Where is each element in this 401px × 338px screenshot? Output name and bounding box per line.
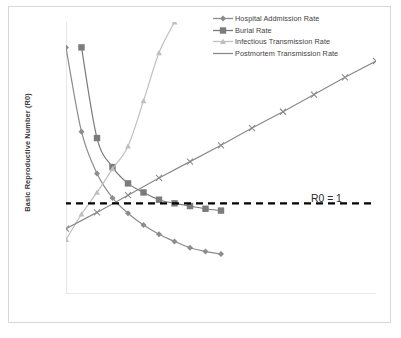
y-axis-label: Basic Reproductive Number (R0) (23, 63, 32, 243)
legend-label: Postmortem Transmission Rate (234, 49, 338, 58)
chart-canvas: 00.511.522.5300.511.52 (66, 22, 376, 294)
chart-figure: Basic Reproductive Number (R0) 00.511.52… (0, 0, 401, 338)
plot-area: 00.511.522.5300.511.52 (66, 22, 376, 294)
legend-label: Hospital Addmission Rate (234, 14, 319, 23)
legend-item-burial-rate: Burial Rate (212, 25, 384, 37)
chart-legend: Hospital Addmission Rate Burial Rate Inf… (212, 13, 384, 59)
legend-key-diamond-icon (212, 13, 234, 24)
legend-label: Infectious Transmission Rate (234, 37, 330, 46)
legend-label: Burial Rate (234, 26, 272, 35)
legend-item-infectious-transmission-rate: Infectious Transmission Rate (212, 36, 384, 48)
legend-key-square-icon (212, 25, 234, 36)
r0-threshold-annotation: R0 = 1 (311, 193, 342, 204)
legend-item-postmortem-transmission-rate: Postmortem Transmission Rate (212, 48, 384, 60)
legend-key-triangle-icon (212, 36, 234, 47)
legend-key-line-icon (212, 48, 234, 59)
legend-item-hospital-addmission-rate: Hospital Addmission Rate (212, 13, 384, 25)
